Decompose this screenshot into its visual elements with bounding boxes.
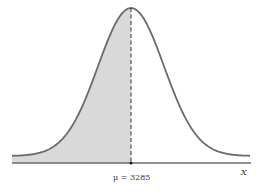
mean-label: μ = 3285 bbox=[113, 173, 150, 182]
mean-marker bbox=[129, 161, 132, 164]
x-axis-label: X bbox=[241, 168, 247, 177]
normal-distribution-chart bbox=[0, 0, 258, 192]
shaded-area-below-mean bbox=[12, 8, 131, 163]
